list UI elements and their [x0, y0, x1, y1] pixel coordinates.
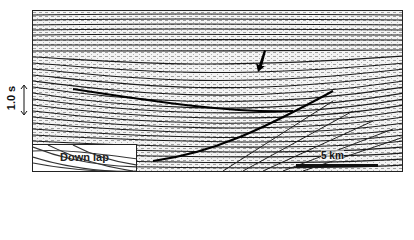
horizontal-scale-bar — [296, 164, 378, 167]
horizontal-scale-label: 5 km — [321, 150, 344, 161]
vertical-scale-label: 1.0 s — [5, 83, 17, 113]
black-arrow-pointer-icon — [255, 50, 267, 72]
vertical-scale: 1.0 s — [2, 82, 30, 118]
double-arrow-vertical-icon — [20, 84, 28, 116]
downlap-inset-diagram: Down lap — [32, 144, 137, 172]
inset-label: Down lap — [33, 151, 136, 163]
